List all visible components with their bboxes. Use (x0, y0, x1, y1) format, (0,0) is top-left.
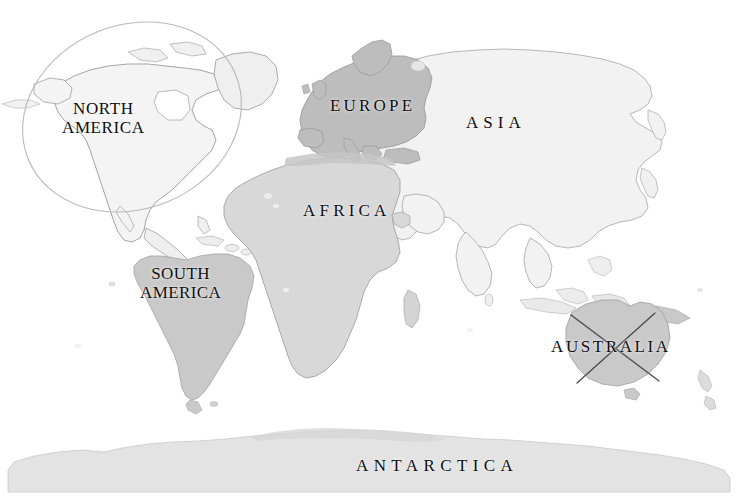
world-map-svg (0, 0, 737, 501)
world-map: NORTH AMERICA SOUTH AMERICA EUROPE AFRIC… (0, 0, 737, 501)
